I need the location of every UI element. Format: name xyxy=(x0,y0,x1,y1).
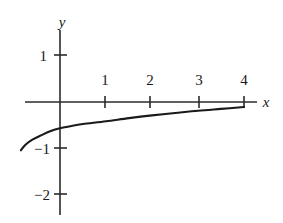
y-tick-label-neg1: −1 xyxy=(34,141,50,157)
x-axis-label: x xyxy=(262,94,270,110)
x-tick-label-4: 4 xyxy=(240,72,248,88)
x-tick-label-1: 1 xyxy=(101,72,109,88)
graph-figure: 1 2 3 4 1 −1 −2 x y xyxy=(0,0,283,223)
plotted-curve xyxy=(21,107,244,150)
y-tick-label-1: 1 xyxy=(40,48,48,64)
y-axis-label: y xyxy=(57,14,66,30)
y-tick-label-neg2: −2 xyxy=(34,187,50,203)
x-tick-label-3: 3 xyxy=(195,72,203,88)
x-tick-label-2: 2 xyxy=(146,72,154,88)
coordinate-plot: 1 2 3 4 1 −1 −2 x y xyxy=(0,0,283,223)
